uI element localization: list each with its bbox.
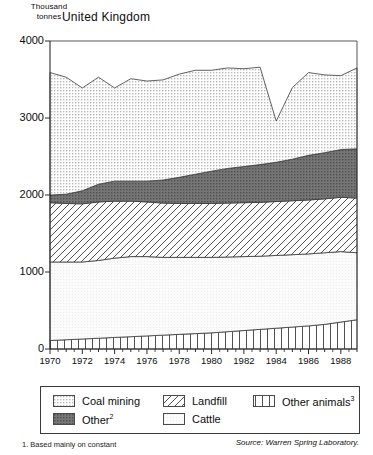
y-tick-label: 4000 (0, 35, 44, 46)
legend-swatch-icon (163, 395, 185, 407)
legend-label: Landfill (192, 395, 227, 407)
y-tick-label: 1000 (0, 266, 44, 277)
area-series-group (50, 67, 357, 349)
legend-cattle: Cattle (163, 410, 227, 428)
legend-label: Cattle (192, 413, 221, 425)
y-tick-label: 3000 (0, 112, 44, 123)
legend-column-1: Coal miningOther2 (53, 392, 140, 428)
legend-swatch-icon (53, 413, 75, 425)
legend-other-animals: Other animals3 (253, 392, 354, 410)
legend-label: Other2 (82, 413, 113, 426)
legend-other: Other2 (53, 410, 140, 428)
area-landfill (50, 197, 357, 262)
legend-column-3: Other animals3 (253, 392, 354, 410)
x-tick-label: 1988 (321, 356, 361, 366)
chart-figure: Thousand tonnes United Kingdom (0, 0, 373, 455)
legend-coal-mining: Coal mining (53, 392, 140, 410)
legend-swatch-icon (163, 413, 185, 425)
legend-landfill: Landfill (163, 392, 227, 410)
legend-swatch-icon (253, 395, 275, 407)
y-tick-label: 2000 (0, 189, 44, 200)
legend: Coal miningOther2 LandfillCattle Other a… (40, 386, 360, 434)
plot-title: United Kingdom (62, 10, 150, 24)
footnote: 1. Based mainly on constant (22, 440, 116, 449)
legend-swatch-icon (53, 395, 75, 407)
source-note: Source: Warren Spring Laboratory. (236, 438, 359, 447)
legend-label: Other animals3 (282, 395, 354, 408)
stacked-area-plot (0, 0, 373, 380)
legend-column-2: LandfillCattle (163, 392, 227, 428)
y-tick-label: 0 (0, 343, 44, 354)
legend-label: Coal mining (82, 395, 140, 407)
